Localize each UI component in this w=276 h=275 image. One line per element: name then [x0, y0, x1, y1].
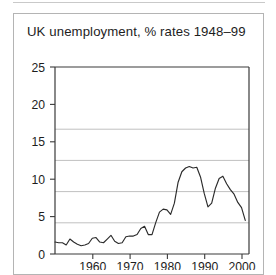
x-tick-label-1980: 1980 [154, 260, 181, 270]
x-tick-marks [93, 254, 242, 259]
y-tick-label-15: 15 [31, 135, 45, 149]
y-tick-label-0: 0 [38, 248, 45, 262]
unemployment-series-line [55, 166, 245, 245]
y-tick-marks [50, 67, 55, 254]
x-tick-label-1990: 1990 [191, 260, 218, 270]
y-tick-label-10: 10 [31, 173, 45, 187]
x-tick-label-2000: 2000 [228, 260, 255, 270]
x-axis-labels: 1960 1970 1980 1990 2000 [79, 260, 256, 270]
y-tick-label-25: 25 [31, 61, 45, 75]
y-axis-labels: 25 20 15 10 5 0 [31, 61, 45, 262]
y-tick-label-20: 20 [31, 98, 45, 112]
y-tick-label-5: 5 [38, 210, 45, 224]
x-tick-label-1960: 1960 [79, 260, 106, 270]
x-tick-label-1970: 1970 [117, 260, 144, 270]
y-gridlines [55, 129, 249, 223]
